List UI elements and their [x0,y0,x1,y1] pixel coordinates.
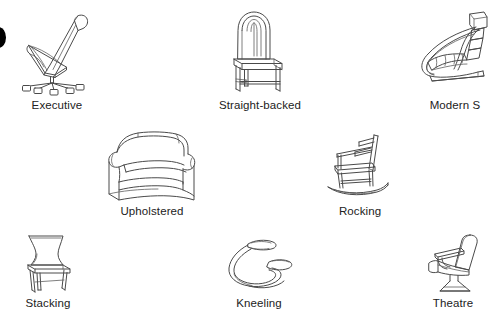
chair-label-executive: Executive [32,98,83,112]
executive-office-chair-illustration [14,12,100,96]
chair-item-theatre: Theatre [417,232,489,310]
chair-item-upholstered: Upholstered [100,128,204,218]
chair-label-modern-s: Modern S [430,98,481,112]
chair-label-theatre: Theatre [433,296,473,310]
chair-label-straight-backed: Straight-backed [219,98,301,112]
chair-label-rocking: Rocking [339,204,381,218]
rocking-chair-illustration [325,132,395,202]
chair-label-kneeling: Kneeling [236,296,282,310]
chair-item-straight-backed: Straight-backed [216,10,304,112]
straight-backed-chair-illustration [216,10,304,96]
chair-item-stacking: Stacking [20,232,76,310]
stacking-chair-illustration [20,232,76,294]
chair-item-executive: Executive [14,12,100,112]
chair-label-stacking: Stacking [26,296,71,310]
chair-item-rocking: Rocking [325,132,395,218]
kneeling-chair-illustration [222,234,296,294]
chair-types-figure: Executive [0,0,496,315]
modern-s-cantilever-chair-illustration [414,10,496,96]
theatre-seat-illustration [417,232,489,294]
chair-label-upholstered: Upholstered [120,204,183,218]
chair-item-kneeling: Kneeling [222,234,296,310]
partial-black-circle-bullet [0,27,6,48]
upholstered-armchair-illustration [100,128,204,202]
chair-item-modern-s: Modern S [414,10,496,112]
